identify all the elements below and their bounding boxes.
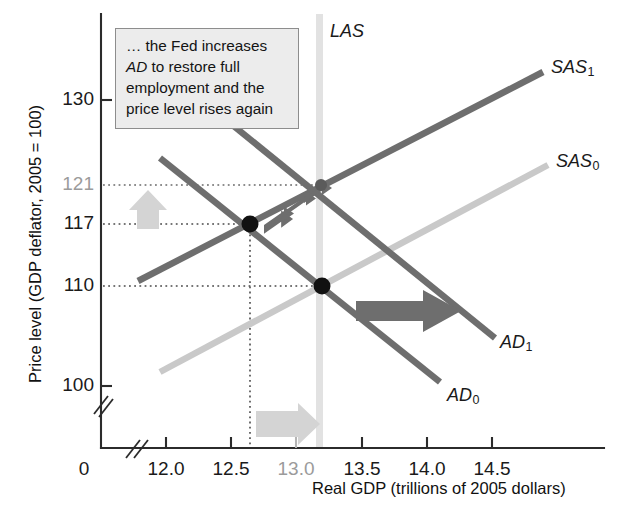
equilibrium-dot-12-5-117 bbox=[242, 216, 259, 233]
curve-label-ad1: AD1 bbox=[500, 333, 532, 354]
curve-label-las: LAS bbox=[330, 22, 364, 40]
x-tick-label-0: 0 bbox=[64, 459, 104, 478]
curve-label-ad0-sub: 0 bbox=[472, 393, 479, 407]
x-tick-label-12-5: 12.5 bbox=[201, 459, 261, 478]
curve-sas0 bbox=[160, 165, 548, 372]
x-tick-label-12-0: 12.0 bbox=[136, 459, 196, 478]
curve-label-ad0: AD0 bbox=[447, 386, 479, 407]
annotation-text-post: to restore full employment and the price… bbox=[126, 58, 273, 117]
curve-label-ad0-text: AD bbox=[447, 385, 472, 405]
curve-label-sas1-text: SAS bbox=[551, 57, 587, 77]
annotation-text-pre: … the Fed increases bbox=[126, 37, 267, 54]
as-ad-chart: … the Fed increases AD to restore full e… bbox=[0, 0, 638, 515]
las-band bbox=[316, 14, 323, 448]
curve-label-sas1: SAS1 bbox=[551, 58, 594, 79]
price-rise-arrow bbox=[129, 190, 167, 229]
x-tick-label-14-5: 14.5 bbox=[462, 459, 522, 478]
y-tick-label-121: 121 bbox=[52, 174, 94, 193]
y-tick-label-100: 100 bbox=[52, 375, 94, 394]
equilibrium-dot-13-0-110 bbox=[314, 278, 331, 295]
curve-label-sas1-sub: 1 bbox=[587, 65, 594, 79]
x-tick-label-13-0: 13.0 bbox=[266, 459, 326, 478]
curve-label-sas0-sub: 0 bbox=[592, 159, 599, 173]
x-axis-title: Real GDP (trillions of 2005 dollars) bbox=[312, 480, 566, 497]
y-tick-label-130: 130 bbox=[52, 89, 94, 108]
annotation-callout: … the Fed increases AD to restore full e… bbox=[115, 28, 299, 129]
curve-label-sas0: SAS0 bbox=[556, 152, 599, 173]
annotation-text-em: AD bbox=[126, 58, 147, 75]
equilibrium-dot-13-0-121 bbox=[315, 179, 327, 191]
curve-label-ad1-text: AD bbox=[500, 332, 525, 352]
x-tick-label-14-0: 14.0 bbox=[397, 459, 457, 478]
x-tick-label-13-5: 13.5 bbox=[332, 459, 392, 478]
curve-label-sas0-text: SAS bbox=[556, 151, 592, 171]
chart-canvas bbox=[0, 0, 638, 515]
potential-gdp-arrow bbox=[256, 403, 320, 445]
y-tick-label-110: 110 bbox=[52, 275, 94, 294]
curve-label-ad1-sub: 1 bbox=[525, 340, 532, 354]
y-tick-label-117: 117 bbox=[52, 213, 94, 232]
y-axis-title: Price level (GDP deflator, 2005 = 100) bbox=[27, 105, 44, 383]
